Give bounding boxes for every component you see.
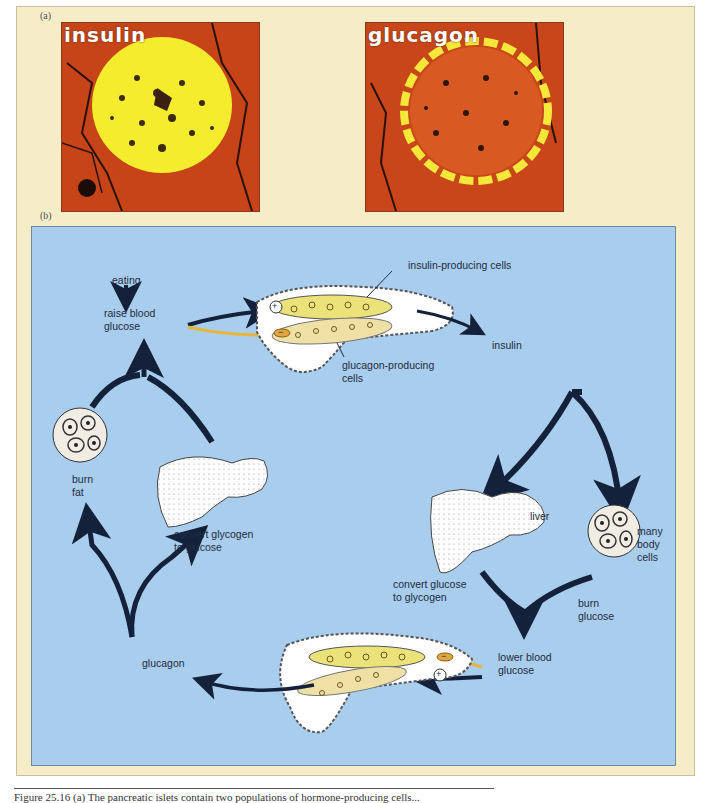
label-convert-glucose-to-glycogen: convert glucose to glycogen — [393, 578, 467, 604]
insulin-stain-label: insulin — [64, 23, 146, 47]
body-cells-right — [588, 505, 640, 557]
label-glucagon-producing-cells: glucagon-producing cells — [342, 359, 434, 385]
label-glucagon: glucagon — [142, 657, 185, 670]
plus-sign-top: + — [272, 300, 277, 313]
bottom-pancreas — [280, 633, 472, 732]
label-burn-fat: burn fat — [72, 473, 93, 499]
minus-sign-top: − — [278, 326, 283, 339]
glucagon-micrograph: glucagon — [365, 22, 564, 212]
label-lower-blood-glucose: lower blood glucose — [498, 651, 552, 677]
label-insulin-producing-cells: insulin-producing cells — [408, 259, 511, 272]
panel-b-label: (b) — [40, 210, 52, 221]
panel-a-label: (a) — [40, 10, 51, 21]
top-pancreas — [257, 271, 453, 372]
plus-sign-bottom: + — [436, 668, 441, 681]
minus-sign-bottom: − — [441, 650, 446, 663]
label-burn-glucose: burn glucose — [578, 597, 614, 623]
label-liver: liver — [530, 510, 549, 523]
fat-cells-left — [53, 408, 107, 462]
label-insulin: insulin — [492, 339, 522, 352]
label-raise-blood-glucose: raise blood glucose — [104, 307, 155, 333]
label-convert-glycogen-to-glucose: convert glycogen to glucose — [174, 528, 253, 554]
glucagon-stain-label: glucagon — [368, 23, 479, 47]
label-eating: eating — [112, 274, 141, 287]
caption-rule — [14, 788, 494, 789]
label-many-body-cells: many body cells — [637, 525, 663, 564]
glucose-regulation-diagram: eating raise blood glucose insulin-produ… — [31, 226, 676, 766]
left-liver — [157, 457, 267, 527]
insulin-micrograph: insulin — [61, 22, 260, 212]
right-liver — [431, 490, 545, 573]
figure-caption: Figure 25.16 (a) The pancreatic islets c… — [14, 791, 420, 803]
